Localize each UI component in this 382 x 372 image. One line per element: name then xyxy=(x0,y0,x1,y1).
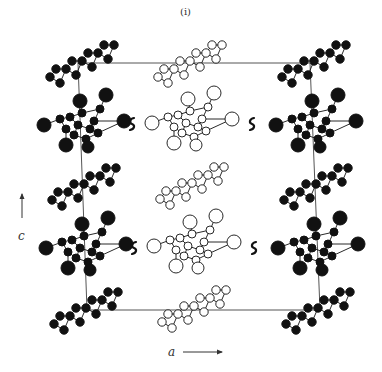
atom xyxy=(190,139,202,151)
atom xyxy=(104,288,112,296)
atom xyxy=(314,141,326,153)
atom xyxy=(298,312,306,320)
atom xyxy=(200,308,208,316)
atom xyxy=(186,57,194,65)
atom xyxy=(174,111,182,119)
atom xyxy=(74,121,82,129)
atom xyxy=(99,88,113,102)
atom xyxy=(158,318,166,326)
atom xyxy=(308,244,316,252)
atom xyxy=(182,119,190,127)
atom xyxy=(209,209,223,223)
atom xyxy=(88,63,96,71)
atom xyxy=(68,236,76,244)
atom xyxy=(328,252,336,260)
atom xyxy=(37,118,51,132)
atom xyxy=(290,202,298,210)
panel-label: (i) xyxy=(180,6,191,17)
atom xyxy=(192,49,200,57)
atom xyxy=(98,296,106,304)
atom xyxy=(326,49,334,57)
atom xyxy=(112,164,120,172)
atom xyxy=(206,294,214,302)
atom xyxy=(196,246,204,254)
atom xyxy=(101,211,115,225)
axis-a-label: a xyxy=(168,345,175,359)
atom xyxy=(202,127,210,135)
atom xyxy=(342,41,350,49)
atom xyxy=(61,261,75,275)
atom xyxy=(280,196,288,204)
atom xyxy=(214,177,222,185)
atom xyxy=(188,179,196,187)
atom xyxy=(292,326,300,334)
atom xyxy=(86,125,94,133)
atom xyxy=(186,107,194,115)
atom xyxy=(194,171,202,179)
atom xyxy=(196,294,204,302)
atom xyxy=(308,318,316,326)
atom xyxy=(86,172,94,180)
atom xyxy=(184,242,192,250)
atom xyxy=(294,125,302,133)
atom xyxy=(190,302,198,310)
atom xyxy=(210,163,218,171)
contact-squiggle-icon xyxy=(132,242,136,254)
molecule-solid-flat xyxy=(282,288,354,334)
atom xyxy=(336,288,344,296)
atom xyxy=(216,300,224,308)
molecule-open-flat xyxy=(154,41,226,87)
molecule-solid-tilted xyxy=(37,88,131,153)
atom xyxy=(62,65,70,73)
atom xyxy=(293,261,307,275)
atom xyxy=(332,41,340,49)
atom xyxy=(84,49,92,57)
atom xyxy=(316,49,324,57)
atom xyxy=(328,172,336,180)
atom xyxy=(80,180,88,188)
atom xyxy=(162,187,170,195)
atom xyxy=(212,55,220,63)
atom xyxy=(290,238,298,246)
atom xyxy=(286,188,294,196)
atom xyxy=(39,241,53,255)
molecule-solid-flat xyxy=(48,164,120,210)
atom xyxy=(271,241,285,255)
c-arrowhead-icon xyxy=(20,193,25,199)
atom xyxy=(78,109,86,117)
atom xyxy=(94,129,102,137)
contact-squiggle-icon xyxy=(252,242,256,254)
atom xyxy=(188,230,196,238)
atom xyxy=(204,103,212,111)
atom xyxy=(300,236,308,244)
atom xyxy=(168,324,176,332)
atom xyxy=(338,178,346,186)
atom xyxy=(296,188,304,196)
atom xyxy=(58,238,66,246)
atom xyxy=(200,238,208,246)
atom xyxy=(98,228,106,236)
atom xyxy=(56,115,64,123)
atom xyxy=(296,248,304,256)
atom xyxy=(324,310,332,318)
atom xyxy=(269,118,283,132)
atom xyxy=(82,304,90,312)
atom xyxy=(302,131,310,139)
a-arrowhead-icon xyxy=(217,350,223,355)
atom xyxy=(310,109,318,117)
atom xyxy=(96,172,104,180)
atom xyxy=(333,211,347,225)
atom xyxy=(92,240,100,248)
atom xyxy=(106,178,114,186)
atom xyxy=(225,112,239,126)
atom xyxy=(102,164,110,172)
atom xyxy=(48,196,56,204)
atom xyxy=(80,232,88,240)
atom xyxy=(336,55,344,63)
atom xyxy=(288,312,296,320)
atom xyxy=(170,123,178,131)
atom xyxy=(318,172,326,180)
atom xyxy=(172,246,180,254)
atom xyxy=(312,232,320,240)
atom xyxy=(346,288,354,296)
